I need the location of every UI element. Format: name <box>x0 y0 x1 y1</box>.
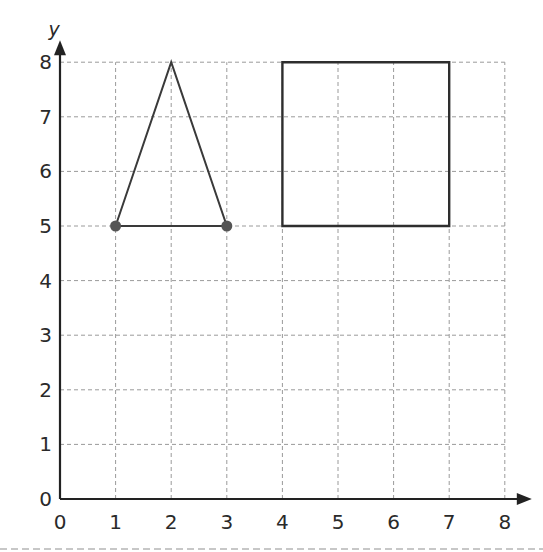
y-tick-label: 5 <box>39 214 52 238</box>
y-tick-label: 7 <box>39 105 52 129</box>
y-tick-label: 0 <box>39 487 52 511</box>
y-tick-label: 1 <box>39 432 52 456</box>
square-shape <box>282 62 449 226</box>
coordinate-plane: y 012345678 012345678 <box>0 0 543 552</box>
y-axis-title: y <box>47 18 60 40</box>
x-tick-label: 6 <box>387 510 400 534</box>
x-tick-label: 3 <box>220 510 233 534</box>
y-tick-label: 4 <box>39 269 52 293</box>
y-tick-labels: 012345678 <box>39 50 52 511</box>
x-axis-arrow-icon <box>517 493 532 505</box>
y-tick-label: 8 <box>39 50 52 74</box>
x-tick-label: 2 <box>165 510 178 534</box>
x-tick-label: 4 <box>276 510 289 534</box>
x-tick-label: 0 <box>54 510 67 534</box>
y-tick-label: 3 <box>39 323 52 347</box>
shapes <box>110 62 449 231</box>
x-tick-label: 8 <box>498 510 511 534</box>
y-tick-label: 2 <box>39 378 52 402</box>
vertex-point-marker <box>110 221 121 232</box>
x-tick-label: 7 <box>443 510 456 534</box>
y-tick-label: 6 <box>39 159 52 183</box>
y-axis-arrow-icon <box>54 40 66 55</box>
x-tick-label: 1 <box>109 510 122 534</box>
axes: y <box>47 18 531 505</box>
vertex-point-marker <box>221 221 232 232</box>
x-tick-labels: 012345678 <box>54 510 512 534</box>
x-tick-label: 5 <box>332 510 345 534</box>
